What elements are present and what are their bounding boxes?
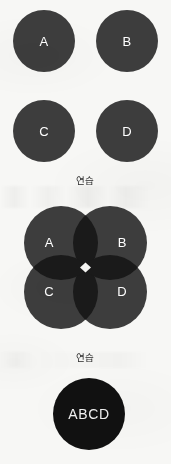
union-circle-abcd: ABCD: [53, 378, 125, 450]
worksheet-page: A B C D 연습: [0, 0, 171, 464]
union-circle-abcd-label: ABCD: [68, 407, 109, 421]
figure-union-set: ABCD: [0, 0, 171, 464]
